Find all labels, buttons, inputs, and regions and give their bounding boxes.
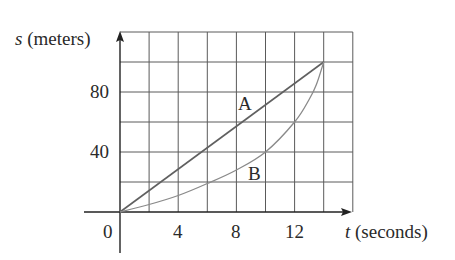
x-axis-var: t: [345, 221, 350, 242]
y-tick-40: 40: [90, 142, 109, 161]
axes: [84, 31, 352, 253]
x-axis-label: t (seconds): [345, 222, 428, 241]
series-a-line: [120, 62, 324, 212]
x-axis-unit: (seconds): [355, 221, 428, 242]
curve-b-label: B: [248, 164, 261, 183]
x-tick-0: 0: [103, 222, 113, 241]
y-axis-label: s (meters): [15, 29, 90, 48]
y-axis-unit: (meters): [27, 28, 90, 49]
x-tick-12: 12: [285, 222, 304, 241]
x-tick-8: 8: [231, 222, 241, 241]
x-tick-4: 4: [173, 222, 183, 241]
y-tick-80: 80: [90, 82, 109, 101]
grid: [120, 32, 353, 212]
curve-a-label: A: [238, 94, 252, 113]
y-axis-var: s: [15, 28, 22, 49]
